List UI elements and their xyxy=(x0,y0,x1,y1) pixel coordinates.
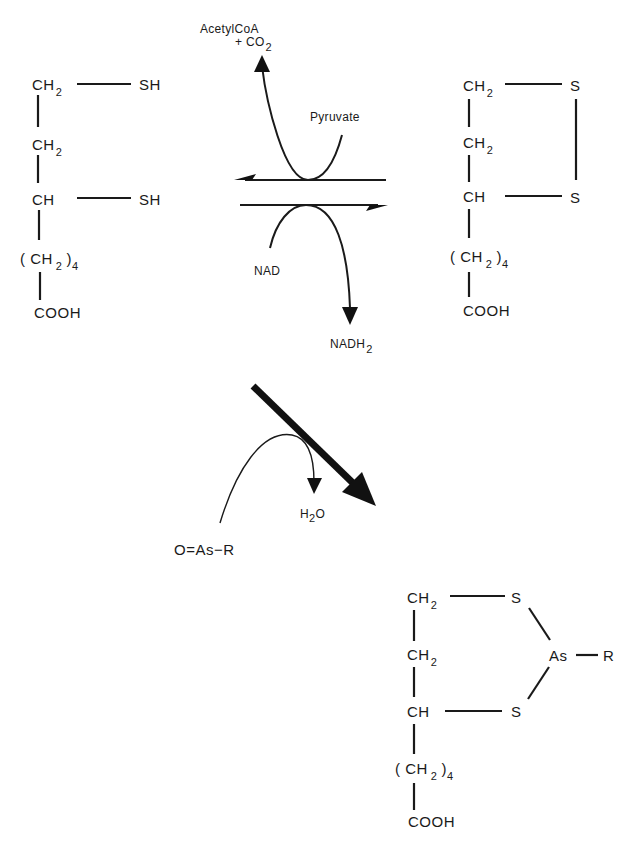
nad-curve xyxy=(270,205,350,308)
molecule-dihydrolipoic-acid: CH2 SH CH2 CH SH ( CH2)4 COOH xyxy=(20,76,161,321)
molecule-lipoic-acid: CH2 S CH2 CH S ( CH2)4 COOH xyxy=(450,77,581,319)
atom-chain: ( CH2)4 xyxy=(395,760,454,782)
atom-ch: CH xyxy=(32,191,55,208)
arsenite-reaction: H2O O=As−R xyxy=(174,386,376,558)
atom-ch2-top: CH2 xyxy=(463,77,493,99)
atom-r: R xyxy=(603,647,614,664)
label-pyruvate: Pyruvate xyxy=(310,110,360,124)
atom-ch2-top: CH2 xyxy=(32,76,62,98)
label-co2: + CO2 xyxy=(235,35,272,53)
atom-sh-top: SH xyxy=(139,76,161,93)
pyruvate-to-acetylcoa: Pyruvate AcetylCoA + CO2 xyxy=(200,22,360,180)
atom-ch: CH xyxy=(407,703,430,720)
atom-chain: ( CH2)4 xyxy=(450,248,509,270)
bond-s1-as xyxy=(529,608,550,640)
atom-ch2-top: CH2 xyxy=(407,589,437,611)
atom-s-bottom: S xyxy=(570,189,581,206)
atom-s-bottom: S xyxy=(511,703,522,720)
bond-as-s2 xyxy=(528,667,549,699)
atom-cooh: COOH xyxy=(463,302,510,319)
label-acetylcoa: AcetylCoA xyxy=(200,22,259,36)
atom-as: As xyxy=(549,647,568,664)
nad-to-nadh2: NAD NADH2 xyxy=(254,205,373,355)
figure-caption-cutoff xyxy=(0,843,641,853)
molecule-arsenite-complex: CH2 S As R CH2 CH S ( CH2)4 COOH xyxy=(395,589,614,830)
atom-sh-bottom: SH xyxy=(139,191,161,208)
label-nad: NAD xyxy=(254,264,280,278)
label-arsenical: O=As−R xyxy=(174,541,235,558)
atom-ch: CH xyxy=(463,188,486,205)
reaction-scheme: CH2 SH CH2 CH SH ( CH2)4 COOH CH2 S CH2 … xyxy=(0,0,641,853)
atom-chain: ( CH2)4 xyxy=(20,250,79,272)
heavy-arrow-line xyxy=(253,386,355,485)
atom-s-top: S xyxy=(570,77,581,94)
atom-cooh: COOH xyxy=(34,304,81,321)
atom-s-top: S xyxy=(511,589,522,606)
down-arrow-head-icon xyxy=(342,307,358,325)
label-nadh2: NADH2 xyxy=(330,337,373,355)
up-arrow-head-icon xyxy=(254,55,270,72)
atom-ch2-mid: CH2 xyxy=(32,136,62,158)
atom-cooh: COOH xyxy=(408,813,455,830)
atom-ch2-mid: CH2 xyxy=(407,646,437,668)
atom-ch2-mid: CH2 xyxy=(463,134,493,156)
water-arrow-head-icon xyxy=(307,478,322,494)
label-water: H2O xyxy=(300,507,325,524)
